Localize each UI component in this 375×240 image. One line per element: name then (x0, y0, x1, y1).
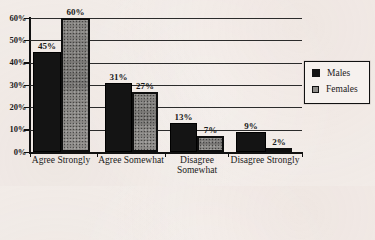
category-label-agree-somewhat: Agree Somewhat (86, 155, 176, 165)
bar-value-label: 60% (45, 7, 106, 17)
y-axis-tick-label: 10% (0, 124, 26, 134)
bar-slot-males-disagree-strongly: 9% (236, 18, 266, 152)
males-swatch-icon (312, 69, 320, 77)
y-axis-tick (24, 107, 30, 109)
y-axis-tick (24, 129, 30, 131)
bar-males-agree-somewhat (105, 83, 132, 152)
bar-slot-females-agree-strongly: 60% (61, 18, 90, 152)
bar-females-agree-strongly (61, 18, 90, 152)
legend-entry-females: Females (312, 84, 369, 94)
legend-label-females: Females (326, 84, 358, 94)
bar-slot-males-agree-strongly: 45% (33, 18, 61, 152)
category-label-disagree-strongly: Disagree Strongly (219, 155, 311, 165)
plot-area: 45% 60% 31% 27% 13% 7% 9% (30, 18, 302, 152)
bar-value-label: 2% (250, 137, 308, 147)
category-label-disagree-somewhat: Disagree Somewhat (167, 155, 227, 176)
y-axis-tick-label: 40% (0, 57, 26, 67)
bar-males-agree-strongly (33, 52, 61, 153)
legend-label-males: Males (327, 68, 350, 78)
y-axis-tick (24, 85, 30, 87)
y-axis-tick (24, 62, 30, 64)
y-axis-tick-label: 0% (0, 147, 26, 157)
y-axis-tick (24, 40, 30, 42)
bar-slot-females-disagree-strongly: 2% (266, 18, 292, 152)
x-axis-line (29, 152, 303, 154)
y-axis-tick-label: 50% (0, 35, 26, 45)
y-axis-tick (24, 18, 30, 20)
bar-value-label: 27% (116, 81, 174, 91)
y-axis-tick (24, 152, 30, 154)
legend-entry-males: Males (312, 68, 369, 78)
legend: Males Females (304, 61, 370, 104)
bar-slot-females-agree-somewhat: 27% (132, 18, 158, 152)
bar-chart: 45% 60% 31% 27% 13% 7% 9% (0, 0, 375, 186)
bar-females-disagree-somewhat (197, 136, 224, 152)
bar-slot-females-disagree-somewhat: 7% (197, 18, 224, 152)
females-swatch-icon (312, 86, 319, 93)
y-axis-tick-label: 30% (0, 80, 26, 90)
y-axis-tick-label: 60% (0, 13, 26, 23)
y-axis-tick-label: 20% (0, 102, 26, 112)
bar-females-disagree-strongly (266, 148, 292, 152)
